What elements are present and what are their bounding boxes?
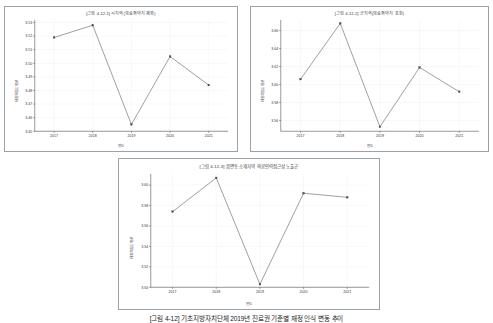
svg-text:2018: 2018 [212,290,220,294]
svg-text:2021: 2021 [205,134,213,138]
svg-text:2017: 2017 [50,134,58,138]
svg-text:3.53: 3.53 [25,21,32,25]
svg-text:3.56: 3.56 [271,119,278,123]
svg-text:3.62: 3.62 [271,65,278,69]
svg-text:2020: 2020 [166,134,174,138]
svg-text:3.54: 3.54 [141,245,148,249]
svg-text:2020: 2020 [416,134,424,138]
svg-text:3.49: 3.49 [25,75,32,79]
svg-text:2019: 2019 [256,290,264,294]
svg-text:2017: 2017 [297,134,305,138]
chart-panel-2: [그림 4-12-2] 군지역(의료취약지 포함) 재정자립도 평균 연도 3.… [250,6,489,152]
svg-text:3.58: 3.58 [141,204,148,208]
svg-text:3.46: 3.46 [25,116,32,120]
svg-text:3.64: 3.64 [271,47,278,51]
document-page: [그림 4-12-1] 시지역(의료취약지 제외) 재정자립도 평균 연도 3.… [0,0,493,323]
chart-3-plot: 3.603.583.563.543.523.502017201820192020… [119,159,379,309]
svg-text:2018: 2018 [336,134,344,138]
chart-1-plot: 3.533.523.513.503.493.483.473.463.452017… [5,7,237,151]
chart-2-plot: 3.663.643.623.603.583.562017201820192020… [251,7,488,151]
svg-text:3.45: 3.45 [25,130,32,134]
svg-text:3.58: 3.58 [271,101,278,105]
svg-text:3.60: 3.60 [141,183,148,187]
svg-text:3.60: 3.60 [271,83,278,87]
svg-text:3.51: 3.51 [25,48,32,52]
svg-text:2017: 2017 [169,290,177,294]
svg-text:3.52: 3.52 [141,265,148,269]
svg-text:2019: 2019 [376,134,384,138]
svg-text:2019: 2019 [127,134,135,138]
svg-text:2021: 2021 [343,290,351,294]
svg-text:3.47: 3.47 [25,102,32,106]
figure-caption: [그림 4-12] 기초지방자치단체 2019년 진료권 기준별 재정 인식 변… [0,313,493,323]
chart-panel-3: [그림 4-12-3] 읍면동 소재지역 의료인력접근성 노출군 재정자립도 평… [118,158,380,310]
svg-text:2018: 2018 [89,134,97,138]
svg-text:3.50: 3.50 [141,286,148,290]
chart-panel-1: [그림 4-12-1] 시지역(의료취약지 제외) 재정자립도 평균 연도 3.… [4,6,238,152]
svg-text:2020: 2020 [300,290,308,294]
svg-text:3.48: 3.48 [25,89,32,93]
svg-text:3.66: 3.66 [271,29,278,33]
svg-text:3.56: 3.56 [141,224,148,228]
svg-text:2021: 2021 [455,134,463,138]
svg-text:3.50: 3.50 [25,62,32,66]
svg-text:3.52: 3.52 [25,34,32,38]
